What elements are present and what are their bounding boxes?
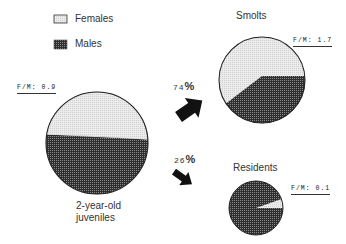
smolts-title: Smolts (236, 10, 267, 21)
percent-symbol: % (185, 80, 196, 92)
smolts-percent-value: 74 (173, 83, 185, 92)
arrow-to-smolts-icon (172, 91, 210, 127)
smolts-pie (219, 37, 305, 123)
legend-males-swatch (54, 40, 67, 49)
legend-label-males: Males (75, 38, 102, 49)
juveniles-label-line2: juveniles (76, 212, 115, 223)
residents-percent: 26% (174, 153, 196, 165)
residents-percent-value: 26 (174, 156, 186, 165)
residents-pie (229, 181, 283, 235)
juveniles-label-line1: 2-year-old (76, 200, 121, 211)
smolts-percent: 74% (173, 80, 195, 92)
percent-symbol: % (186, 153, 197, 165)
residents-title: Residents (233, 162, 277, 173)
arrow-to-residents-icon (169, 165, 196, 191)
juveniles-fm-ratio: F/M: 0.9 (17, 84, 56, 94)
juveniles-pie (46, 92, 148, 194)
legend-females-swatch (54, 15, 67, 23)
smolts-fm-ratio: F/M: 1.7 (293, 37, 332, 47)
residents-fm-ratio: F/M: 0.1 (291, 185, 330, 195)
legend-label-females: Females (75, 13, 113, 24)
